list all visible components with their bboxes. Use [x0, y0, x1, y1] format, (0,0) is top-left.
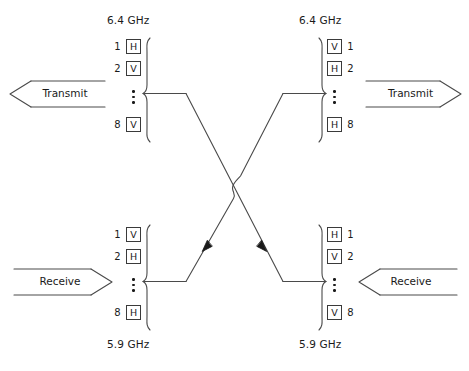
port-row[interactable]: 1 H [112, 38, 144, 55]
port-row[interactable]: V 1 [327, 38, 359, 55]
port-row[interactable]: V 8 [327, 304, 359, 321]
freq-label-bottom-left: 5.9 GHz [107, 338, 149, 350]
port-polarization-box: H [327, 227, 342, 242]
port-row[interactable]: 2 H [112, 248, 144, 265]
diagram-canvas: 6.4 GHz 1 H 2 V 8 V Transmit 6.4 GHz V [0, 0, 469, 371]
port-ellipsis [327, 82, 359, 112]
port-ellipsis [327, 270, 359, 300]
wiring-diagram-svg [0, 0, 469, 371]
port-index: 1 [112, 41, 123, 52]
port-index: 2 [345, 251, 356, 262]
port-row[interactable]: V 2 [327, 248, 359, 265]
port-row[interactable]: 1 V [112, 226, 144, 243]
port-group-bottom-right: H 1 V 2 V 8 [327, 226, 359, 326]
port-ellipsis [112, 270, 144, 300]
arrow-label-transmit-right: Transmit [373, 87, 448, 99]
port-row[interactable]: H 1 [327, 226, 359, 243]
port-index: 2 [345, 63, 356, 74]
port-polarization-box: V [126, 117, 141, 132]
port-group-bottom-left: 1 V 2 H 8 H [112, 226, 144, 326]
port-polarization-box: H [126, 305, 141, 320]
brace-top-left [143, 38, 150, 142]
port-row[interactable]: H 2 [327, 60, 359, 77]
brace-bottom-right [319, 225, 326, 330]
port-index: 8 [345, 307, 356, 318]
port-index: 2 [112, 251, 123, 262]
port-index: 2 [112, 63, 123, 74]
port-polarization-box: H [327, 61, 342, 76]
port-index: 8 [112, 119, 123, 130]
arrow-label-transmit-left: Transmit [25, 87, 105, 99]
brace-bottom-left [143, 225, 150, 330]
port-group-top-right: V 1 H 2 H 8 [327, 38, 359, 138]
port-row[interactable]: H 8 [327, 116, 359, 133]
port-row[interactable]: 2 V [112, 60, 144, 77]
port-index: 8 [112, 307, 123, 318]
port-index: 1 [345, 41, 356, 52]
port-polarization-box: V [126, 227, 141, 242]
brace-top-right [319, 38, 326, 142]
port-group-top-left: 1 H 2 V 8 V [112, 38, 144, 138]
port-polarization-box: H [327, 117, 342, 132]
port-polarization-box: V [327, 39, 342, 54]
port-polarization-box: V [327, 305, 342, 320]
port-index: 1 [112, 229, 123, 240]
port-polarization-box: H [126, 39, 141, 54]
freq-label-top-right: 6.4 GHz [299, 14, 341, 26]
freq-label-bottom-right: 5.9 GHz [299, 338, 341, 350]
arrow-label-receive-right: Receive [20, 275, 100, 287]
arrow-label-receive-left: Receive [375, 275, 447, 287]
port-index: 8 [345, 119, 356, 130]
port-row[interactable]: 8 H [112, 304, 144, 321]
freq-label-top-left: 6.4 GHz [107, 14, 149, 26]
port-polarization-box: V [327, 249, 342, 264]
port-row[interactable]: 8 V [112, 116, 144, 133]
arrowhead-bottom-left-diagonal [202, 241, 212, 252]
port-ellipsis [112, 82, 144, 112]
port-polarization-box: H [126, 249, 141, 264]
port-polarization-box: V [126, 61, 141, 76]
port-index: 1 [345, 229, 356, 240]
